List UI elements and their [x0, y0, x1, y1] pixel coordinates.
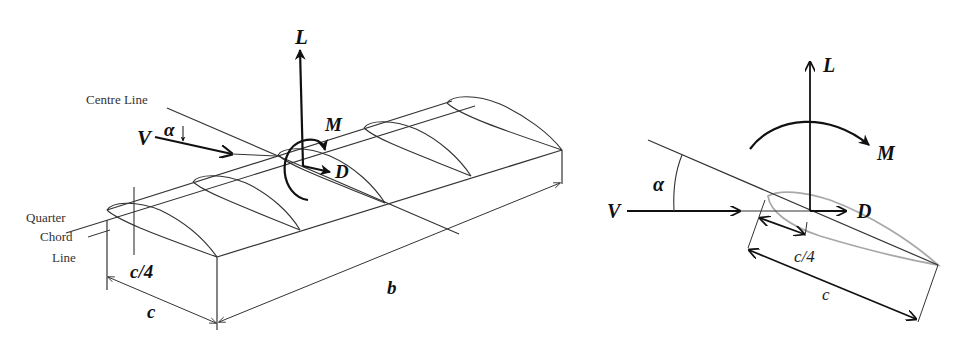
centre-line — [167, 108, 459, 234]
velocity-label-2d: V — [607, 200, 622, 222]
span-label: b — [387, 277, 397, 298]
chord-label: c — [147, 301, 156, 322]
moment-label-2d: M — [876, 142, 896, 164]
chord-label-2d: c — [822, 285, 830, 304]
c4-label: c/4 — [130, 261, 153, 282]
wing-diagram: L M D V α Centre Line Quarter Chord Line… — [0, 0, 971, 339]
wing-3d-panel: L M D V α Centre Line Quarter Chord Line… — [26, 25, 562, 330]
chord-tick-right — [918, 265, 938, 322]
airfoil-2d-panel: L M D V α c/4 c — [607, 54, 938, 322]
lift-label: L — [294, 25, 308, 49]
velocity-extension — [232, 154, 276, 156]
chord-dimension — [108, 277, 216, 323]
c4-tick-right — [805, 222, 807, 236]
lift-label-2d: L — [822, 54, 835, 76]
alpha-label-2d: α — [653, 173, 665, 195]
chord-dimension-2d — [749, 250, 916, 319]
velocity-label: V — [137, 126, 153, 150]
quarter-chord-label-1: Quarter — [26, 210, 66, 225]
c4-tick-left — [748, 200, 765, 248]
centre-line-label: Centre Line — [86, 92, 148, 107]
alpha-label: α — [164, 119, 175, 140]
c4-label-2d: c/4 — [794, 247, 815, 266]
quarter-chord-label-3: Line — [52, 250, 76, 265]
wing-box-outline — [107, 101, 562, 330]
quarter-chord-label-2: Chord — [40, 229, 73, 244]
alpha-arc — [674, 155, 682, 211]
drag-label-2d: D — [856, 200, 871, 222]
drag-label: D — [334, 161, 349, 182]
moment-label: M — [324, 114, 343, 135]
